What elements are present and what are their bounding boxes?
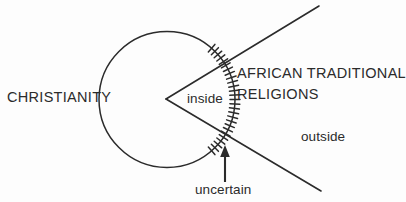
label-atr-line-2: RELIGIONS <box>237 86 406 103</box>
hatch-tick <box>217 138 225 144</box>
hatch-tick <box>229 112 239 114</box>
label-african-traditional-religions: AFRICAN TRADITIONALRELIGIONS <box>237 65 406 103</box>
hatch-tick <box>229 108 239 109</box>
label-christianity: CHRISTIANITY <box>7 89 111 106</box>
uncertain-pointer-arrow <box>220 145 230 182</box>
hatch-tick <box>217 55 225 61</box>
label-atr-line-1: AFRICAN TRADITIONAL <box>237 65 406 81</box>
label-uncertain: uncertain <box>195 182 251 198</box>
wedge-lower-ray <box>166 99 321 191</box>
label-outside: outside <box>301 129 345 145</box>
label-inside: inside <box>187 91 223 107</box>
hatch-tick <box>230 104 240 105</box>
